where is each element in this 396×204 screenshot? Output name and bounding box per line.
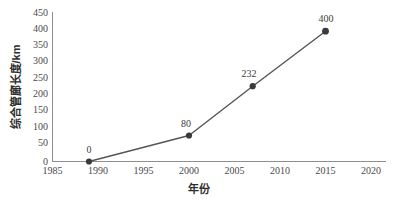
data-point-marker[interactable] [86,158,92,164]
x-tick-label: 2015 [316,165,336,176]
data-point-marker[interactable] [250,83,256,89]
y-tick-label: 50 [38,137,48,148]
data-point-label: 0 [87,144,92,155]
y-tick-label: 400 [33,23,48,34]
y-axis-title: 综合管廊长度/km [9,44,22,129]
y-tick-label: 200 [33,88,48,99]
data-point-label: 400 [319,13,334,24]
data-point-marker[interactable] [322,28,329,35]
line-chart: 450 400 350 300 250 200 150 100 50 0 198… [0,0,396,204]
x-tick-label: 1995 [134,165,154,176]
x-tick-label: 1990 [88,165,108,176]
x-axis-title: 年份 [188,182,211,195]
y-tick-label: 450 [33,7,48,18]
y-tick-label: 100 [33,121,48,132]
x-tick-label: 2000 [179,165,199,176]
data-point-marker[interactable] [186,132,192,138]
y-tick-label: 250 [33,72,48,83]
x-tick-label: 2005 [225,165,245,176]
x-tick-label: 1985 [43,165,63,176]
x-tick-label: 2010 [270,165,290,176]
y-tick-label: 350 [33,39,48,50]
y-tick-label: 300 [33,55,48,66]
data-point-label: 80 [181,118,191,129]
y-tick-label: 150 [33,104,48,115]
x-tick-label: 2020 [361,165,381,176]
data-point-label: 232 [242,68,257,79]
chart-container: 450 400 350 300 250 200 150 100 50 0 198… [0,0,396,204]
